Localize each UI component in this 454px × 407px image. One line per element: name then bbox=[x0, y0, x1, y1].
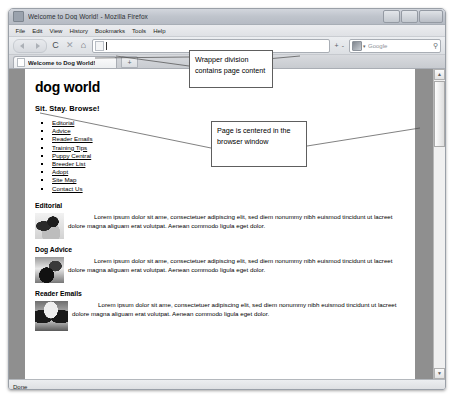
menu-item-view[interactable]: View bbox=[46, 28, 66, 34]
menu-item-file[interactable]: File bbox=[12, 28, 29, 34]
list-item[interactable]: Adopt bbox=[52, 168, 405, 176]
list-item[interactable]: Site Map bbox=[52, 176, 405, 184]
menu-item-history[interactable]: History bbox=[66, 28, 92, 34]
new-tab-button[interactable]: + bbox=[121, 56, 138, 68]
back-forward-group[interactable] bbox=[13, 39, 47, 53]
list-item[interactable]: Puppy Central bbox=[52, 152, 405, 160]
search-input[interactable]: Google bbox=[368, 43, 433, 49]
article-body: Lorem ipsum dolor sit ame, consectetuer … bbox=[35, 256, 405, 274]
minimize-button[interactable] bbox=[383, 10, 400, 23]
tab-label: Welcome to Dog World! bbox=[28, 60, 95, 66]
nav-link-reader-emails[interactable]: Reader Emails bbox=[52, 135, 93, 142]
browser-window: Welcome to Dog World! - Mozilla Firefox … bbox=[8, 8, 446, 390]
forward-arrow-icon[interactable] bbox=[36, 43, 40, 49]
list-item[interactable]: Contact Us bbox=[52, 185, 405, 193]
basset-hound-photo bbox=[35, 301, 68, 331]
article-editorial: Editorial Lorem ipsum dolor sit ame, con… bbox=[35, 202, 405, 240]
firefox-logo-icon bbox=[13, 11, 24, 22]
page-body-background: dog world Sit. Stay. Browse! Editorial A… bbox=[9, 69, 433, 379]
nav-link-adopt[interactable]: Adopt bbox=[52, 168, 68, 175]
article-heading: Reader Emails bbox=[35, 290, 405, 297]
page-favicon-icon bbox=[95, 41, 104, 51]
nav-link-training-tips[interactable]: Training Tips bbox=[52, 144, 87, 151]
menu-item-bookmarks[interactable]: Bookmarks bbox=[92, 28, 129, 34]
nav-link-site-map[interactable]: Site Map bbox=[52, 176, 76, 183]
page-title: dog world bbox=[35, 79, 405, 95]
article-body: Lorem ipsum dolor sit ame, consectetuer … bbox=[35, 212, 405, 230]
jack-russell-terrier-photo bbox=[35, 213, 64, 239]
back-arrow-icon[interactable] bbox=[20, 43, 24, 49]
nav-link-advice[interactable]: Advice bbox=[52, 127, 71, 134]
zoom-out-button[interactable]: + bbox=[335, 42, 339, 49]
title-bar: Welcome to Dog World! - Mozilla Firefox bbox=[9, 9, 445, 25]
status-text: Done bbox=[13, 384, 27, 390]
nav-link-puppy-central[interactable]: Puppy Central bbox=[52, 152, 91, 159]
article-body: Lorem ipsum dolor sit ame, consectetuer … bbox=[35, 300, 405, 318]
article-heading: Editorial bbox=[35, 202, 405, 209]
tab-welcome-to-dog-world[interactable]: Welcome to Dog World! bbox=[13, 56, 117, 68]
list-item[interactable]: Training Tips bbox=[52, 144, 405, 152]
list-item[interactable]: Breeder List bbox=[52, 160, 405, 168]
menu-item-edit[interactable]: Edit bbox=[29, 28, 46, 34]
tab-favicon-icon bbox=[17, 58, 25, 67]
window-title: Welcome to Dog World! - Mozilla Firefox bbox=[28, 13, 148, 20]
home-icon[interactable]: ⌂ bbox=[78, 41, 89, 50]
reload-icon[interactable]: C bbox=[50, 41, 61, 50]
menu-bar: File Edit View History Bookmarks Tools H… bbox=[9, 25, 445, 37]
stop-icon[interactable]: ✕ bbox=[64, 41, 75, 50]
maximize-button[interactable] bbox=[401, 10, 418, 23]
scroll-down-arrow-icon[interactable]: ▼ bbox=[434, 368, 445, 379]
content-viewport: dog world Sit. Stay. Browse! Editorial A… bbox=[9, 69, 445, 379]
page-tagline: Sit. Stay. Browse! bbox=[35, 104, 405, 113]
article-dog-advice: Dog Advice Lorem ipsum dolor sit ame, co… bbox=[35, 246, 405, 284]
border-collie-photo bbox=[35, 257, 64, 283]
address-caret bbox=[106, 42, 107, 50]
article-heading: Dog Advice bbox=[35, 246, 405, 253]
navigation-toolbar: C ✕ ⌂ + - ▾ Google ⚲ bbox=[9, 37, 445, 55]
article-reader-emails: Reader Emails Lorem ipsum dolor sit ame,… bbox=[35, 290, 405, 332]
nav-link-contact-us[interactable]: Contact Us bbox=[52, 185, 83, 192]
tab-strip: Welcome to Dog World! + bbox=[9, 55, 445, 69]
list-item[interactable]: Advice bbox=[52, 127, 405, 135]
menu-item-tools[interactable]: Tools bbox=[129, 28, 150, 34]
scrollbar-thumb[interactable] bbox=[434, 81, 445, 147]
wrapper-division: dog world Sit. Stay. Browse! Editorial A… bbox=[25, 69, 415, 379]
nav-link-editorial[interactable]: Editorial bbox=[52, 119, 74, 126]
vertical-scrollbar[interactable]: ▲ ▼ bbox=[433, 69, 445, 379]
site-navigation-list: Editorial Advice Reader Emails Training … bbox=[35, 119, 405, 193]
search-engine-icon[interactable] bbox=[352, 41, 362, 51]
zoom-in-button[interactable]: - bbox=[342, 42, 344, 49]
status-bar: Done bbox=[9, 379, 445, 390]
close-button[interactable] bbox=[419, 10, 443, 23]
zoom-controls: + - bbox=[333, 42, 346, 49]
chevron-down-icon[interactable]: ▾ bbox=[363, 43, 366, 49]
search-icon[interactable]: ⚲ bbox=[433, 42, 438, 50]
window-controls bbox=[383, 10, 443, 23]
nav-link-breeder-list[interactable]: Breeder List bbox=[52, 160, 85, 167]
list-item[interactable]: Reader Emails bbox=[52, 135, 405, 143]
scroll-up-arrow-icon[interactable]: ▲ bbox=[434, 69, 445, 80]
search-bar[interactable]: ▾ Google ⚲ bbox=[349, 39, 441, 53]
address-bar[interactable] bbox=[92, 39, 330, 53]
menu-item-help[interactable]: Help bbox=[150, 28, 169, 34]
list-item[interactable]: Editorial bbox=[52, 119, 405, 127]
